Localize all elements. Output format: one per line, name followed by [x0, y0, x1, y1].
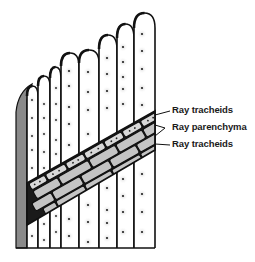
label-ray-tracheids-bottom: Ray tracheids: [172, 138, 233, 149]
label-ray-tracheids-top: Ray tracheids: [172, 104, 233, 115]
label-ray-parenchyma: Ray parenchyma: [172, 121, 247, 132]
leader-lines: [155, 111, 170, 145]
